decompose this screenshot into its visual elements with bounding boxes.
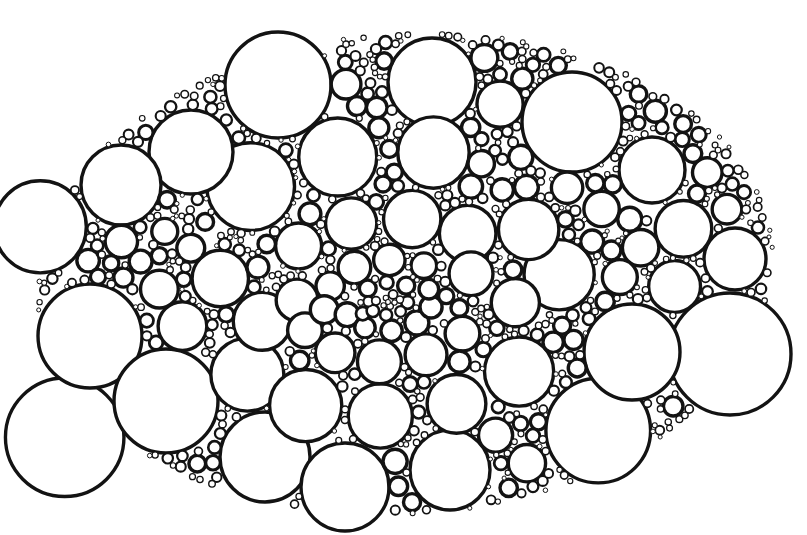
packed-circle: [175, 93, 180, 98]
packed-circle: [544, 413, 548, 417]
packed-circle: [696, 259, 704, 267]
packed-circle: [606, 80, 614, 88]
packed-circle: [190, 474, 196, 480]
packed-circle: [748, 220, 754, 226]
packed-circle: [498, 269, 504, 275]
packed-circle: [107, 280, 115, 288]
packed-circle: [413, 439, 419, 445]
packed-circle: [227, 235, 232, 240]
packed-circle: [392, 180, 404, 192]
packed-circle: [209, 481, 216, 488]
packed-circle: [554, 372, 559, 377]
packed-circle: [336, 437, 342, 443]
packed-circle: [319, 254, 324, 259]
packed-circle: [192, 194, 203, 205]
packed-circle: [296, 493, 302, 499]
packed-circle: [642, 216, 652, 226]
packed-circle: [190, 297, 196, 303]
packed-circle: [660, 95, 668, 103]
packed-circle: [670, 255, 675, 260]
packed-circle: [299, 118, 377, 196]
packed-circle: [433, 379, 437, 383]
packed-circle: [727, 145, 731, 149]
packed-circle: [495, 499, 500, 504]
packed-circle: [65, 284, 69, 288]
packed-circle: [561, 49, 566, 54]
packed-circle: [232, 132, 245, 145]
packed-circle: [559, 370, 566, 377]
packed-circle: [301, 443, 389, 531]
packed-circle: [100, 236, 105, 241]
packed-circle: [170, 463, 175, 468]
packed-circle: [296, 269, 300, 273]
packed-circle: [196, 82, 203, 89]
packed-circle: [98, 251, 105, 258]
packed-circle: [538, 78, 543, 83]
packed-circle: [663, 200, 667, 204]
packed-circle: [449, 252, 493, 296]
packed-circle: [644, 400, 652, 408]
packed-circle: [717, 135, 721, 139]
packed-circle: [349, 369, 360, 380]
packed-circle: [599, 163, 603, 167]
packed-circle: [287, 272, 294, 279]
packed-circle: [684, 258, 689, 263]
packed-circle: [446, 185, 451, 190]
packed-circle: [163, 453, 173, 463]
packed-circle: [568, 478, 573, 483]
packed-circle: [405, 435, 411, 441]
packed-circle: [405, 32, 411, 38]
packed-circle: [174, 214, 178, 218]
packed-circle: [643, 294, 651, 302]
packed-circle: [747, 289, 755, 297]
packed-circle: [204, 91, 216, 103]
packed-circle: [375, 176, 391, 192]
packed-circle: [549, 177, 553, 181]
packed-circle: [221, 95, 227, 101]
packed-circle: [170, 206, 178, 214]
packed-circle: [410, 292, 415, 297]
packed-circle: [702, 201, 708, 207]
packed-circle: [619, 137, 628, 146]
packed-circle: [651, 429, 656, 434]
packed-circle: [478, 305, 485, 312]
packed-circle: [156, 111, 166, 121]
packed-circle: [641, 269, 648, 276]
packed-circle: [374, 140, 379, 145]
packed-circle: [322, 323, 332, 333]
packed-circle: [379, 210, 384, 215]
packed-circle: [549, 318, 555, 324]
packed-circle: [565, 56, 572, 63]
packed-circle: [363, 195, 370, 202]
packed-circle: [701, 274, 709, 282]
packed-circle: [493, 40, 504, 51]
packed-circle: [737, 186, 750, 199]
packed-circle: [459, 196, 465, 202]
packed-circle: [42, 280, 47, 285]
packed-circle: [317, 229, 321, 233]
packed-circle: [315, 363, 320, 368]
packed-circle: [147, 453, 152, 458]
packed-circle: [292, 201, 296, 205]
packed-circle: [545, 193, 554, 202]
packed-circle: [767, 235, 771, 239]
packed-circle: [573, 321, 578, 326]
packed-circle: [409, 395, 417, 403]
packed-circle: [269, 273, 275, 279]
packed-circle: [399, 39, 404, 44]
packed-circle: [509, 447, 513, 451]
packed-circle: [384, 136, 388, 140]
packed-circle: [215, 81, 225, 91]
packed-circle: [549, 386, 559, 396]
packed-circle: [90, 269, 105, 284]
packed-circle: [349, 41, 354, 46]
packed-circle: [516, 62, 522, 68]
packed-circle: [252, 134, 261, 143]
circle-packing-svg: [0, 0, 807, 535]
packed-circle: [409, 426, 418, 435]
packed-circle: [497, 154, 508, 165]
packed-circle: [517, 489, 525, 497]
packed-circle: [566, 309, 578, 321]
packed-circle: [219, 307, 234, 322]
packed-circle: [502, 476, 506, 480]
